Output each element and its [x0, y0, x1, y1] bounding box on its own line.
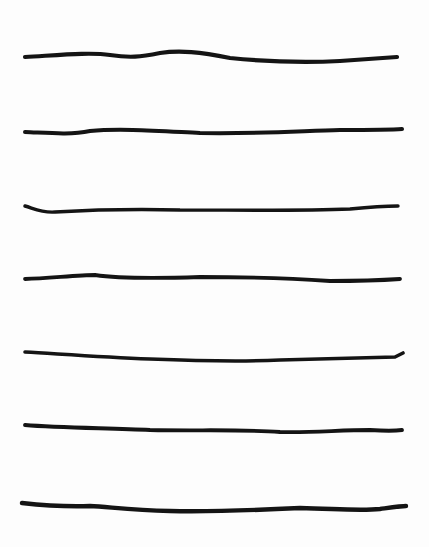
- writing-line-3: [25, 206, 398, 212]
- ruled-lines: [0, 0, 429, 547]
- writing-line-7: [22, 503, 406, 511]
- writing-line-4: [25, 275, 400, 281]
- writing-line-5: [25, 352, 403, 361]
- writing-line-2: [25, 129, 402, 133]
- writing-line-1: [25, 52, 397, 62]
- writing-line-6: [25, 425, 402, 432]
- worksheet-page: [0, 0, 429, 547]
